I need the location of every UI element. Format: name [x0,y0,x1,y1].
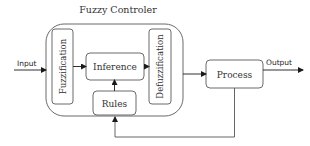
fuzzy-controller-diagram: Fuzzy Controler Fuzzification Inference … [0,0,310,146]
rules-block[interactable]: Rules [93,91,136,115]
rules-label: Rules [102,99,128,109]
input-signal: Input [14,59,46,70]
output-label: Output [266,58,292,67]
process-block[interactable]: Process [206,60,263,88]
defuzzification-label: Defuzzification [155,34,165,99]
input-label: Input [17,59,36,68]
output-signal: Output [263,58,303,70]
process-label: Process [217,70,253,80]
fuzzification-label: Fuzzification [58,38,68,94]
controller-title: Fuzzy Controler [79,4,157,15]
defuzzification-block[interactable]: Defuzzification [149,29,171,104]
inference-label: Inference [93,62,137,72]
fuzzification-block[interactable]: Fuzzification [52,29,73,104]
inference-block[interactable]: Inference [86,53,144,80]
